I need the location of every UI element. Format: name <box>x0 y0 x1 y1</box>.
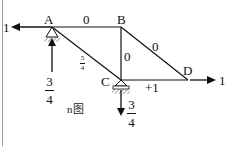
reaction-a-value: 3 4 <box>45 75 54 106</box>
arrowhead-left-icon <box>11 23 20 31</box>
force-ac: 5 4 <box>80 55 85 72</box>
force-ab: 0 <box>83 13 90 26</box>
reaction-c-value: 3 4 <box>127 98 136 129</box>
pin-support-a-icon <box>46 27 58 37</box>
load-d-value: 1 <box>219 74 226 87</box>
load-a-value: 1 <box>3 21 10 34</box>
node-label-c: C <box>101 75 110 88</box>
arrowhead-right-icon <box>207 76 216 84</box>
arrowhead-down-icon <box>117 108 125 116</box>
truss-drawing <box>0 0 229 146</box>
node-label-b: B <box>117 13 126 26</box>
member-ac <box>52 27 121 80</box>
roller-support-c-icon <box>115 80 127 86</box>
force-bd: 0 <box>152 40 159 53</box>
force-bc: 0 <box>124 50 131 63</box>
node-label-a: A <box>44 13 53 26</box>
node-label-d: D <box>183 64 192 77</box>
diagram-caption: n图 <box>67 100 84 116</box>
roller-c-icon <box>113 86 129 89</box>
force-cd: +1 <box>145 81 159 94</box>
